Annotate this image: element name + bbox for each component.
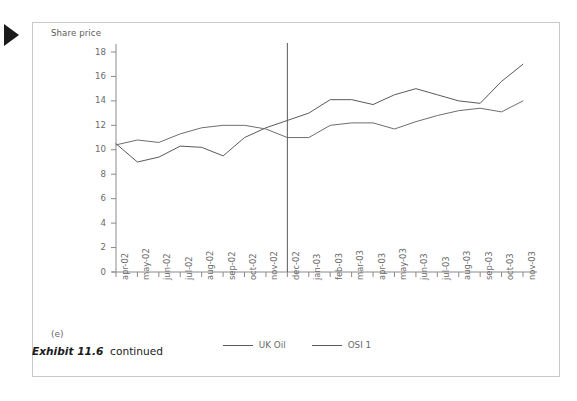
line-chart-svg (33, 23, 561, 333)
x-axis-tick-label: jan-03 (312, 254, 322, 280)
caption-label: Exhibit 11.6 (32, 345, 103, 357)
y-axis-tick-label: 10 (80, 145, 106, 153)
exhibit-figure-box: Share price 024681012141618apr-02may-02j… (32, 22, 560, 377)
play-triangle-icon (4, 24, 19, 46)
x-axis-tick-label: sep-02 (227, 251, 237, 280)
y-axis-tick-label: 16 (80, 72, 106, 80)
x-axis-tick-label: may-03 (398, 248, 408, 280)
y-axis-tick-label: 4 (80, 219, 106, 227)
y-axis-tick-label: 2 (80, 243, 106, 251)
x-axis-tick-label: sep-03 (484, 251, 494, 280)
y-axis-tick-label: 0 (80, 268, 106, 276)
x-axis-tick-label: apr-03 (377, 253, 387, 280)
y-axis-tick-label: 12 (80, 121, 106, 129)
x-axis-tick-label: dec-02 (291, 251, 301, 280)
x-axis-tick-label: oct-02 (248, 253, 258, 280)
x-axis-tick-label: jul-02 (184, 256, 194, 280)
y-axis-tick-label: 14 (80, 96, 106, 104)
x-axis-tick-label: feb-03 (334, 253, 344, 280)
x-axis-tick-label: mar-03 (355, 250, 365, 280)
x-axis-tick-label: aug-02 (205, 251, 215, 280)
screenshot-page: Share price 024681012141618apr-02may-02j… (0, 0, 577, 401)
x-axis-tick-label: nov-03 (527, 251, 537, 280)
y-axis-tick-label: 6 (80, 194, 106, 202)
x-axis-tick-label: jun-02 (162, 253, 172, 280)
x-axis-tick-label: nov-02 (269, 251, 279, 280)
x-axis-tick-label: may-02 (141, 248, 151, 280)
chart-plot-area: Share price 024681012141618apr-02may-02j… (33, 23, 561, 333)
y-axis-tick-label: 8 (80, 170, 106, 178)
y-axis-tick-label: 18 (80, 48, 106, 56)
x-axis-tick-label: jun-03 (419, 253, 429, 280)
x-axis-tick-label: jul-03 (441, 256, 451, 280)
x-axis-tick-label: apr-02 (120, 253, 130, 280)
x-axis-tick-label: aug-03 (462, 251, 472, 280)
exhibit-caption: Exhibit 11.6 continued (32, 345, 362, 357)
caption-rest: continued (110, 345, 163, 357)
x-axis-tick-label: oct-03 (505, 253, 515, 280)
